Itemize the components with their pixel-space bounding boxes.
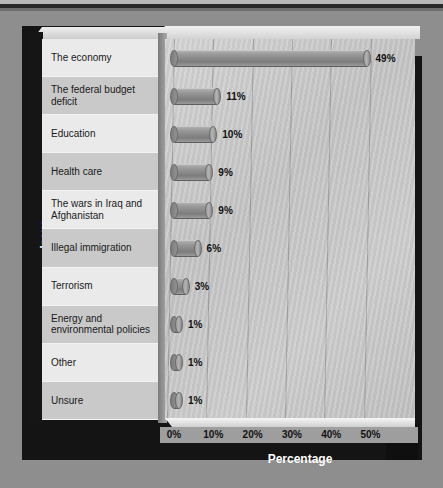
gridline bbox=[324, 39, 332, 420]
category-label-row: Health care bbox=[42, 153, 166, 191]
bar bbox=[174, 164, 209, 181]
category-label-text: Illegal immigration bbox=[51, 242, 132, 254]
bar-cap-left bbox=[170, 278, 178, 295]
category-label-row: Education bbox=[42, 115, 166, 153]
x-tick-label: 30% bbox=[277, 427, 307, 443]
bar-value-label: 1% bbox=[188, 354, 202, 371]
bar-cap-right bbox=[194, 240, 202, 257]
category-label-text: Energy and environmental policies bbox=[51, 313, 162, 336]
category-label-row: The economy bbox=[42, 39, 166, 77]
x-tick-label: 50% bbox=[356, 427, 386, 443]
category-label-text: The wars in Iraq and Afghanistan bbox=[51, 198, 162, 221]
category-label-row: Other bbox=[42, 344, 166, 382]
gridline bbox=[285, 39, 293, 420]
gridline bbox=[246, 39, 254, 420]
x-tick-label: 10% bbox=[198, 427, 228, 443]
gridline bbox=[364, 39, 372, 420]
category-label-row: Energy and environmental policies bbox=[42, 306, 166, 344]
bar-cap-left bbox=[170, 202, 178, 219]
category-label-text: The federal budget deficit bbox=[51, 84, 162, 107]
x-tick-label: 20% bbox=[238, 427, 268, 443]
bar-cap-left bbox=[170, 126, 178, 143]
bar bbox=[174, 240, 198, 257]
bar-cap-left bbox=[170, 164, 178, 181]
bar-cap-left bbox=[170, 50, 178, 67]
category-label-text: Terrorism bbox=[51, 280, 93, 292]
bar-value-label: 1% bbox=[188, 316, 202, 333]
bar-value-label: 6% bbox=[207, 240, 221, 257]
category-label-row: The federal budget deficit bbox=[42, 77, 166, 115]
label-panel-top-bevel bbox=[33, 27, 165, 39]
bar-value-label: 9% bbox=[218, 202, 232, 219]
top-edge-midtone bbox=[0, 8, 443, 11]
category-label-text: Health care bbox=[51, 166, 102, 178]
category-label-text: The economy bbox=[51, 52, 112, 64]
plot-area-top-bevel bbox=[155, 26, 420, 39]
bar bbox=[174, 126, 213, 143]
bar bbox=[174, 278, 186, 295]
bar bbox=[174, 50, 367, 67]
bar-value-label: 10% bbox=[222, 126, 242, 143]
chart-figure: Issue The economyThe federal budget defi… bbox=[0, 0, 443, 488]
category-label-row: The wars in Iraq and Afghanistan bbox=[42, 191, 166, 229]
bar bbox=[174, 392, 179, 409]
category-label-row: Unsure bbox=[42, 382, 166, 420]
bar bbox=[174, 202, 209, 219]
category-label-row: Illegal immigration bbox=[42, 229, 166, 267]
bar-value-label: 49% bbox=[376, 50, 396, 67]
bar-cap-right bbox=[213, 88, 221, 105]
bar-value-label: 9% bbox=[218, 164, 232, 181]
bar-value-label: 11% bbox=[226, 88, 245, 105]
plot-area-base-plinth bbox=[165, 418, 415, 427]
category-label-row: Terrorism bbox=[42, 268, 166, 306]
bar-value-label: 3% bbox=[195, 278, 209, 295]
bar bbox=[174, 354, 179, 371]
bar-cap-right bbox=[182, 278, 190, 295]
y-axis-spine: Issue bbox=[28, 32, 43, 424]
bar-cap-left bbox=[170, 240, 178, 257]
bar-cap-left bbox=[170, 88, 178, 105]
bar-value-label: 1% bbox=[188, 392, 202, 409]
bar bbox=[174, 88, 217, 105]
bar-cap-right bbox=[363, 50, 371, 67]
x-tick-label: 40% bbox=[316, 427, 346, 443]
x-tick-label: 0% bbox=[159, 427, 189, 443]
category-label-text: Other bbox=[51, 357, 76, 369]
x-axis-title: Percentage bbox=[230, 452, 370, 466]
category-label-text: Education bbox=[51, 128, 95, 140]
bar bbox=[174, 316, 179, 333]
category-label-panel: The economyThe federal budget deficitEdu… bbox=[42, 39, 166, 420]
category-label-text: Unsure bbox=[51, 395, 83, 407]
